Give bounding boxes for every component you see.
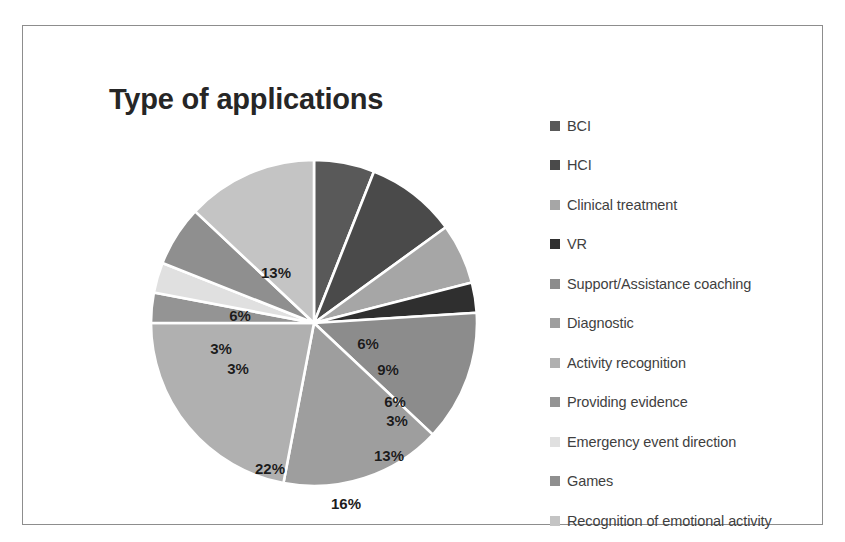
legend-item[interactable]: Games bbox=[550, 462, 840, 502]
legend-item-label: Providing evidence bbox=[567, 394, 688, 410]
legend-swatch-icon bbox=[550, 318, 560, 328]
legend-swatch-icon bbox=[550, 437, 560, 447]
chart-legend: BCIHCIClinical treatmentVRSupport/Assist… bbox=[550, 106, 840, 541]
pie-chart: 6%9%6%3%13%16%22%3%3%6%13% bbox=[150, 159, 478, 487]
legend-item-label: VR bbox=[567, 236, 587, 252]
pie-slice-value-label: 9% bbox=[377, 361, 399, 378]
legend-item[interactable]: BCI bbox=[550, 106, 840, 146]
legend-swatch-icon bbox=[550, 160, 560, 170]
pie-slice-value-label: 6% bbox=[229, 307, 251, 324]
legend-item-label: Clinical treatment bbox=[567, 197, 677, 213]
legend-item-label: BCI bbox=[567, 118, 591, 134]
legend-swatch-icon bbox=[550, 476, 560, 486]
pie-slice-value-label: 6% bbox=[384, 393, 406, 410]
pie-slice-value-label: 13% bbox=[261, 264, 291, 281]
legend-item-label: Recognition of emotional activity bbox=[567, 513, 772, 529]
legend-swatch-icon bbox=[550, 358, 560, 368]
legend-item[interactable]: Activity recognition bbox=[550, 343, 840, 383]
legend-swatch-icon bbox=[550, 200, 560, 210]
legend-item-label: Activity recognition bbox=[567, 355, 686, 371]
figure-frame: Type of applications 6%9%6%3%13%16%22%3%… bbox=[22, 25, 823, 525]
pie-slice-value-label: 6% bbox=[357, 335, 379, 352]
pie-slice-value-label: 3% bbox=[227, 360, 249, 377]
pie-slice-value-label: 3% bbox=[386, 412, 408, 429]
legend-item[interactable]: Support/Assistance coaching bbox=[550, 264, 840, 304]
legend-item[interactable]: Diagnostic bbox=[550, 304, 840, 344]
legend-swatch-icon bbox=[550, 516, 560, 526]
legend-item-label: HCI bbox=[567, 157, 592, 173]
legend-swatch-icon bbox=[550, 397, 560, 407]
pie-chart-svg bbox=[150, 159, 478, 487]
figure-page: Type of applications 6%9%6%3%13%16%22%3%… bbox=[0, 0, 845, 542]
pie-slice-value-label: 16% bbox=[331, 495, 361, 512]
pie-slice-value-label: 3% bbox=[210, 340, 232, 357]
pie-slice-value-label: 22% bbox=[255, 460, 285, 477]
legend-item[interactable]: Emergency event direction bbox=[550, 422, 840, 462]
legend-swatch-icon bbox=[550, 279, 560, 289]
legend-item-label: Support/Assistance coaching bbox=[567, 276, 751, 292]
pie-slice-value-label: 13% bbox=[374, 447, 404, 464]
legend-item-label: Games bbox=[567, 473, 613, 489]
legend-swatch-icon bbox=[550, 239, 560, 249]
legend-item[interactable]: Recognition of emotional activity bbox=[550, 501, 840, 541]
legend-item-label: Diagnostic bbox=[567, 315, 634, 331]
legend-item[interactable]: VR bbox=[550, 225, 840, 265]
legend-item[interactable]: Providing evidence bbox=[550, 383, 840, 423]
legend-swatch-icon bbox=[550, 121, 560, 131]
legend-item[interactable]: Clinical treatment bbox=[550, 185, 840, 225]
legend-item-label: Emergency event direction bbox=[567, 434, 736, 450]
legend-item[interactable]: HCI bbox=[550, 146, 840, 186]
chart-title: Type of applications bbox=[109, 83, 489, 116]
